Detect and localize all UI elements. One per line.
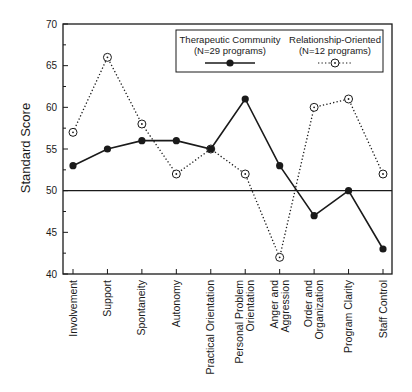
x-tick-label-line: Organization (313, 280, 325, 340)
x-tick-label: Anger andAggression (268, 280, 291, 333)
legend-series-name: Therapeutic Community (180, 34, 281, 45)
series-relationship-oriented (69, 53, 387, 261)
y-tick-label: 50 (46, 185, 58, 196)
marker-filled-circle (226, 59, 233, 66)
x-tick-label: Support (101, 280, 113, 317)
marker-center-dot (279, 256, 281, 258)
series-line (73, 57, 383, 257)
x-tick-label: Order andOrganization (302, 280, 325, 340)
y-tick-label: 60 (46, 102, 58, 113)
marker-center-dot (72, 131, 74, 133)
marker-filled-circle (242, 95, 249, 102)
marker-filled-circle (104, 145, 111, 152)
marker-filled-circle (276, 162, 283, 169)
x-tick-label-line: Orientation (244, 280, 256, 332)
y-axis: 40455055606570 (46, 19, 68, 280)
marker-center-dot (382, 173, 384, 175)
marker-filled-circle (173, 137, 180, 144)
x-tick-label-line: Support (101, 280, 113, 317)
marker-filled-circle (207, 145, 214, 152)
x-tick-label-line: Autonomy (170, 279, 182, 327)
marker-center-dot (334, 62, 336, 64)
marker-filled-circle (379, 245, 386, 252)
marker-filled-circle (311, 212, 318, 219)
legend-series-subtitle: (N=12 programs) (299, 45, 371, 56)
line-chart: 40455055606570 InvolvementSupportSpontan… (0, 0, 412, 392)
x-tick-label: Personal ProblemOrientation (233, 280, 256, 364)
x-tick-label: Program Clarity (342, 279, 354, 353)
x-tick-label-line: Involvement (67, 280, 79, 337)
x-tick-label-line: Practical Orientation (204, 280, 216, 375)
y-tick-label: 40 (46, 269, 58, 280)
marker-center-dot (244, 173, 246, 175)
legend-series-name: Relationship-Oriented (289, 34, 381, 45)
legend: Therapeutic Community(N=29 programs)Rela… (176, 30, 383, 72)
marker-filled-circle (345, 187, 352, 194)
marker-filled-circle (69, 162, 76, 169)
marker-center-dot (107, 56, 109, 58)
legend-series-subtitle: (N=29 programs) (194, 45, 266, 56)
y-tick-label: 65 (46, 60, 58, 71)
x-tick-label: Autonomy (170, 279, 182, 327)
series-line (73, 99, 383, 249)
x-tick-label: Practical Orientation (204, 280, 216, 375)
y-tick-label: 45 (46, 227, 58, 238)
y-axis-label: Standard Score (18, 103, 33, 193)
y-tick-label: 55 (46, 144, 58, 155)
x-tick-label-line: Staff Control (377, 280, 389, 338)
x-tick-label-line: Program Clarity (342, 279, 354, 353)
marker-filled-circle (138, 137, 145, 144)
x-axis: InvolvementSupportSpontaneityAutonomyPra… (67, 269, 389, 375)
marker-center-dot (175, 173, 177, 175)
x-tick-label: Staff Control (377, 280, 389, 338)
series-therapeutic-community (69, 95, 386, 252)
x-tick-label: Spontaneity (135, 279, 147, 335)
x-tick-label-line: Spontaneity (135, 279, 147, 335)
x-tick-label-line: Aggression (279, 280, 291, 333)
marker-center-dot (141, 123, 143, 125)
y-tick-label: 70 (46, 19, 58, 30)
marker-center-dot (348, 98, 350, 100)
marker-center-dot (313, 106, 315, 108)
series-layer (69, 53, 387, 261)
x-tick-label: Involvement (67, 280, 79, 337)
